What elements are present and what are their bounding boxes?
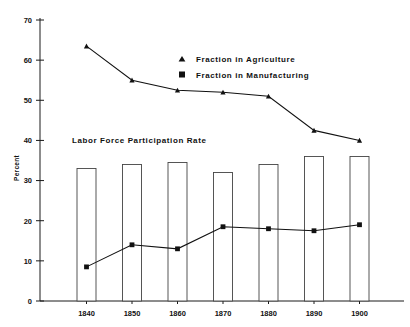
manufacturing-point-1900 <box>357 222 362 227</box>
y-tick-label-50: 50 <box>24 96 32 105</box>
y-tick-label-20: 20 <box>24 217 32 226</box>
chart-container: 010203040506070 184018501860187018801890… <box>0 0 410 327</box>
manufacturing-point-1850 <box>130 242 135 247</box>
bar-1900 <box>350 156 369 301</box>
y-axis-title: Percent <box>13 154 20 180</box>
x-tick-label-1880: 1880 <box>260 309 277 318</box>
manufacturing-point-1870 <box>221 224 226 229</box>
bar-1840 <box>77 169 96 301</box>
x-tick-label-1890: 1890 <box>306 309 323 318</box>
agriculture-point-1840 <box>84 43 89 48</box>
x-tick-label-1840: 1840 <box>78 309 95 318</box>
bar-1870 <box>214 173 233 301</box>
x-tick-label-1900: 1900 <box>351 309 368 318</box>
y-tick-label-40: 40 <box>24 136 32 145</box>
bar-1860 <box>168 163 187 301</box>
manufacturing-point-1840 <box>84 264 89 269</box>
x-tick-label-1870: 1870 <box>215 309 232 318</box>
manufacturing-point-1890 <box>312 228 317 233</box>
y-tick-label-0: 0 <box>28 297 32 306</box>
x-tick-label-1860: 1860 <box>169 309 186 318</box>
legend-square-icon <box>179 72 185 78</box>
manufacturing-point-1880 <box>266 226 271 231</box>
legend-triangle-icon <box>179 56 186 62</box>
legend: Fraction in Agriculture Fraction in Manu… <box>179 55 310 80</box>
bar-1880 <box>259 165 278 301</box>
x-axis-tick-labels: 1840185018601870188018901900 <box>78 309 368 318</box>
y-tick-label-10: 10 <box>24 257 32 266</box>
chart-svg: 010203040506070 184018501860187018801890… <box>0 0 410 327</box>
bars-annotation-label: Labor Force Participation Rate <box>72 136 206 145</box>
legend-label-manufacturing: Fraction in Manufacturing <box>196 71 309 80</box>
legend-label-agriculture: Fraction in Agriculture <box>196 55 295 64</box>
y-tick-label-30: 30 <box>24 176 32 185</box>
manufacturing-point-1860 <box>175 246 180 251</box>
y-axis-tick-labels: 010203040506070 <box>24 16 32 306</box>
y-tick-label-70: 70 <box>24 16 32 25</box>
y-tick-label-60: 60 <box>24 56 32 65</box>
bar-1850 <box>123 165 142 301</box>
x-tick-label-1850: 1850 <box>124 309 141 318</box>
